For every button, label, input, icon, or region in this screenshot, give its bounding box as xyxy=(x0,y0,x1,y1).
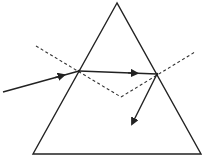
prism-triangle xyxy=(33,3,201,154)
internal-ray xyxy=(79,71,157,74)
exit-ray xyxy=(133,74,157,122)
prism-diagram xyxy=(0,0,203,156)
refraction-point-1 xyxy=(78,70,80,72)
refraction-point-2 xyxy=(156,73,158,75)
incident-ray xyxy=(3,71,79,92)
incident-ray-arrow-icon xyxy=(55,76,62,78)
